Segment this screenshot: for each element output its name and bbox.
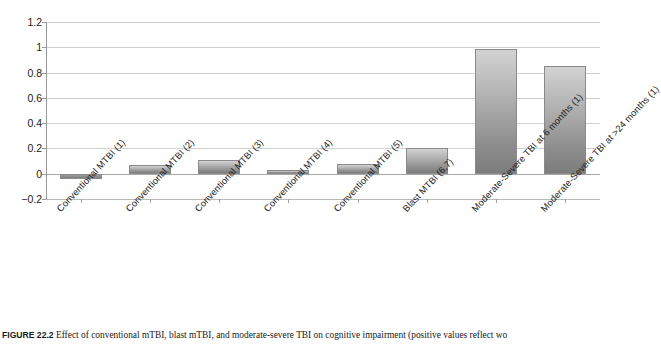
x-tick-mark: [81, 199, 82, 203]
x-axis-tick-label: Blast MTBI (6,7): [401, 157, 455, 214]
x-axis-tick-label: Moderate-Severe TBI at >24 months (1): [539, 84, 661, 214]
x-tick-mark: [219, 199, 220, 203]
x-tick-mark: [358, 199, 359, 203]
x-tick-mark: [427, 199, 428, 203]
x-axis-tick-label: Conventional MTBI (3): [193, 137, 265, 213]
figure-number: FIGURE 22.2: [2, 330, 54, 340]
x-axis-tick-label: Moderate-Severe TBI at 6 months (1): [470, 92, 585, 214]
figure-caption-text: Effect of conventional mTBI, blast mTBI,…: [56, 330, 507, 340]
x-axis-tick-label: Conventional MTBI (5): [332, 137, 404, 213]
x-tick-mark: [496, 199, 497, 203]
x-axis-tick-label: Conventional MTBI (1): [55, 137, 127, 213]
x-axis-tick-label: Conventional MTBI (2): [124, 137, 196, 213]
x-tick-mark: [565, 199, 566, 203]
x-tick-mark: [288, 199, 289, 203]
x-tick-mark: [150, 199, 151, 203]
figure-caption: FIGURE 22.2 Effect of conventional mTBI,…: [2, 330, 617, 341]
x-axis-tick-label: Conventional MTBI (4): [262, 137, 334, 213]
